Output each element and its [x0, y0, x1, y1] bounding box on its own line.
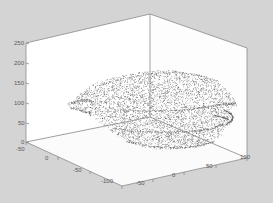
y-axis-tick-label: -100	[101, 178, 113, 184]
x-axis-tick-label: -50	[136, 180, 145, 186]
x-axis-tick-label: 0	[172, 172, 175, 178]
y-axis-tick-label: -50	[16, 146, 25, 152]
x-axis-tick-label: 50	[206, 163, 213, 169]
z-axis-tick-label: 0	[21, 139, 24, 145]
z-axis-tick-label: 150	[14, 80, 24, 86]
axis-lines-group	[0, 0, 273, 203]
z-axis-tick-label: 50	[18, 120, 25, 126]
edge-top-right	[150, 14, 247, 48]
z-axis-tick-label: 200	[14, 60, 24, 66]
z-axis-tick-label: 100	[14, 100, 24, 106]
z-axis-ticks	[26, 43, 29, 143]
y-axis-tick-label: 0	[45, 155, 48, 161]
x-axis-tick-label: 100	[240, 154, 250, 160]
x-axis-ticks	[153, 158, 247, 182]
z-axis-tick-label: 250	[14, 40, 24, 46]
edge-top-left	[26, 14, 150, 43]
edge-back-left-floor	[26, 117, 150, 142]
edge-back-right-floor	[150, 117, 247, 158]
y-axis-tick-label: -50	[73, 167, 82, 173]
matlab-figure-window: 250200150100500-500-50-100-50050100	[0, 0, 273, 203]
